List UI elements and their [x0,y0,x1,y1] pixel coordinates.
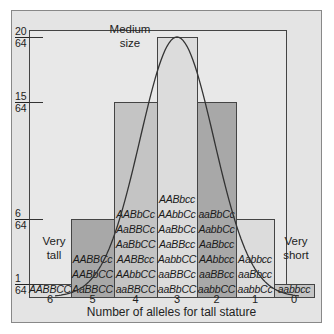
normal-curve [0,0,334,334]
very-short-label: Very short [276,234,316,262]
medium-size-label: Medium size [100,22,160,50]
x-axis-title: Number of alleles for tall stature [29,305,314,319]
very-tall-label: Very tall [34,234,74,262]
